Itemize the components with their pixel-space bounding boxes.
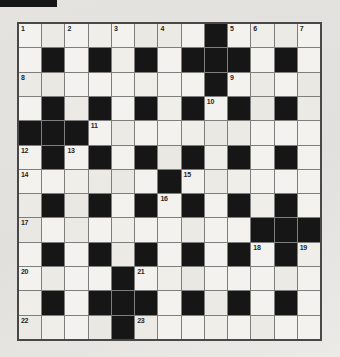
grid-cell[interactable]: [65, 316, 87, 339]
grid-cell[interactable]: [89, 73, 111, 96]
grid-cell[interactable]: [135, 218, 157, 241]
grid-cell[interactable]: [112, 170, 134, 193]
grid-cell[interactable]: [251, 146, 273, 169]
grid-cell[interactable]: [251, 73, 273, 96]
grid-cell[interactable]: [182, 121, 204, 144]
grid-cell[interactable]: [251, 291, 273, 314]
grid-cell[interactable]: [158, 146, 180, 169]
grid-cell[interactable]: [42, 316, 64, 339]
grid-cell[interactable]: 20: [19, 267, 41, 290]
grid-cell[interactable]: 9: [228, 73, 250, 96]
grid-cell[interactable]: [298, 48, 320, 71]
grid-cell[interactable]: [42, 24, 64, 47]
grid-cell[interactable]: [112, 243, 134, 266]
grid-cell[interactable]: [112, 121, 134, 144]
grid-cell[interactable]: [135, 24, 157, 47]
grid-cell[interactable]: [89, 24, 111, 47]
grid-cell[interactable]: 1: [19, 24, 41, 47]
grid-cell[interactable]: [228, 316, 250, 339]
grid-cell[interactable]: [19, 48, 41, 71]
grid-cell[interactable]: [158, 291, 180, 314]
grid-cell[interactable]: [19, 243, 41, 266]
grid-cell[interactable]: [205, 194, 227, 217]
grid-cell[interactable]: 14: [19, 170, 41, 193]
grid-cell[interactable]: [19, 194, 41, 217]
grid-cell[interactable]: [158, 48, 180, 71]
grid-cell[interactable]: [65, 73, 87, 96]
grid-cell[interactable]: [158, 73, 180, 96]
grid-cell[interactable]: [275, 73, 297, 96]
grid-cell[interactable]: [298, 291, 320, 314]
grid-cell[interactable]: [205, 121, 227, 144]
grid-cell[interactable]: [298, 73, 320, 96]
grid-cell[interactable]: [251, 48, 273, 71]
grid-cell[interactable]: [205, 291, 227, 314]
grid-cell[interactable]: [65, 243, 87, 266]
grid-cell[interactable]: 17: [19, 218, 41, 241]
grid-cell[interactable]: [158, 243, 180, 266]
grid-cell[interactable]: [112, 48, 134, 71]
grid-cell[interactable]: [89, 218, 111, 241]
grid-cell[interactable]: [158, 267, 180, 290]
grid-cell[interactable]: [298, 170, 320, 193]
grid-cell[interactable]: [112, 97, 134, 120]
grid-cell[interactable]: [182, 267, 204, 290]
grid-cell[interactable]: 11: [89, 121, 111, 144]
grid-cell[interactable]: [251, 316, 273, 339]
grid-cell[interactable]: [298, 267, 320, 290]
grid-cell[interactable]: [158, 316, 180, 339]
grid-cell[interactable]: [251, 267, 273, 290]
grid-cell[interactable]: [19, 291, 41, 314]
grid-cell[interactable]: [42, 170, 64, 193]
grid-cell[interactable]: 4: [158, 24, 180, 47]
grid-cell[interactable]: [65, 218, 87, 241]
grid-cell[interactable]: [65, 97, 87, 120]
grid-cell[interactable]: [275, 121, 297, 144]
grid-cell[interactable]: [158, 218, 180, 241]
grid-cell[interactable]: [182, 218, 204, 241]
grid-cell[interactable]: [158, 121, 180, 144]
grid-cell[interactable]: [182, 316, 204, 339]
grid-cell[interactable]: [65, 267, 87, 290]
grid-cell[interactable]: 21: [135, 267, 157, 290]
grid-cell[interactable]: 10: [205, 97, 227, 120]
grid-cell[interactable]: [42, 267, 64, 290]
grid-cell[interactable]: [275, 170, 297, 193]
grid-cell[interactable]: 7: [298, 24, 320, 47]
grid-cell[interactable]: [228, 218, 250, 241]
grid-cell[interactable]: 16: [158, 194, 180, 217]
grid-cell[interactable]: [298, 194, 320, 217]
grid-cell[interactable]: [205, 243, 227, 266]
grid-cell[interactable]: 2: [65, 24, 87, 47]
grid-cell[interactable]: [275, 24, 297, 47]
grid-cell[interactable]: [135, 73, 157, 96]
grid-cell[interactable]: 18: [251, 243, 273, 266]
grid-cell[interactable]: [298, 121, 320, 144]
grid-cell[interactable]: [135, 121, 157, 144]
grid-cell[interactable]: [42, 73, 64, 96]
grid-cell[interactable]: [65, 170, 87, 193]
grid-cell[interactable]: [298, 316, 320, 339]
grid-cell[interactable]: [112, 146, 134, 169]
grid-cell[interactable]: [251, 121, 273, 144]
grid-cell[interactable]: 3: [112, 24, 134, 47]
grid-cell[interactable]: 12: [19, 146, 41, 169]
grid-cell[interactable]: [251, 97, 273, 120]
grid-cell[interactable]: [89, 267, 111, 290]
grid-cell[interactable]: [228, 121, 250, 144]
grid-cell[interactable]: [275, 316, 297, 339]
grid-cell[interactable]: [89, 316, 111, 339]
grid-cell[interactable]: [182, 73, 204, 96]
grid-cell[interactable]: [251, 194, 273, 217]
grid-cell[interactable]: [135, 170, 157, 193]
grid-cell[interactable]: [182, 24, 204, 47]
grid-cell[interactable]: 5: [228, 24, 250, 47]
grid-cell[interactable]: [275, 267, 297, 290]
grid-cell[interactable]: 13: [65, 146, 87, 169]
grid-cell[interactable]: [228, 267, 250, 290]
grid-cell[interactable]: [205, 316, 227, 339]
grid-cell[interactable]: [112, 73, 134, 96]
grid-cell[interactable]: [205, 267, 227, 290]
grid-cell[interactable]: [228, 170, 250, 193]
grid-cell[interactable]: 8: [19, 73, 41, 96]
